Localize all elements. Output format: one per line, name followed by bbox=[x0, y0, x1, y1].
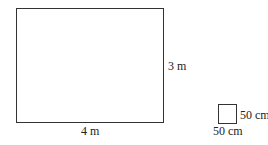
large-rectangle-width-label: 4 m bbox=[81, 125, 99, 137]
large-rectangle-height-label: 3 m bbox=[168, 60, 186, 72]
small-square-bottom-label: 50 cm bbox=[213, 125, 243, 137]
small-square bbox=[218, 104, 237, 124]
large-rectangle bbox=[16, 8, 164, 123]
small-square-right-label: 50 cm bbox=[240, 109, 268, 121]
